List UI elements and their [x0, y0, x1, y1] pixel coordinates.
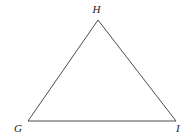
vertex-label-g: G	[14, 123, 22, 134]
vertex-label-i: I	[176, 123, 180, 134]
vertex-label-h: H	[0, 4, 193, 15]
geometry-figure-triangle: H G I	[0, 0, 193, 137]
triangle-outline	[28, 20, 176, 121]
triangle-shape	[0, 0, 193, 137]
